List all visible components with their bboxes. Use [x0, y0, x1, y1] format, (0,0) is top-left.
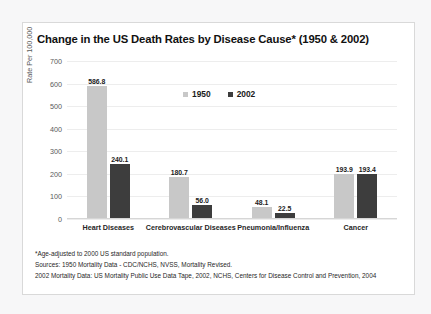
y-axis-tick-label: 600: [50, 79, 62, 88]
bar-value-label: 193.4: [359, 166, 376, 173]
y-axis-tick-label: 200: [50, 169, 62, 178]
bar-value-label: 193.9: [336, 166, 353, 173]
bar-value-label: 22.5: [278, 205, 291, 212]
gridline: [67, 61, 397, 62]
bar-2002[interactable]: 193.4: [357, 174, 377, 218]
bar-value-label: 56.0: [196, 197, 209, 204]
bar-rect[interactable]: [357, 174, 377, 218]
bar-2002[interactable]: 240.1: [110, 164, 130, 218]
footnote-line: Sources: 1950 Mortality Data - CDC/NCHS,…: [35, 259, 407, 270]
bar-value-label: 48.1: [255, 199, 268, 206]
footnote-line: *Age-adjusted to 2000 US standard popula…: [35, 248, 407, 259]
bar-value-label: 586.8: [88, 78, 105, 85]
bar-group: 180.756.0Cerebrovascular Diseases: [150, 177, 233, 218]
bar-1950[interactable]: 193.9: [334, 174, 354, 218]
bar-1950[interactable]: 180.7: [169, 177, 189, 218]
footnote-line: 2002 Mortality Data: US Mortality Public…: [35, 270, 407, 281]
bar-value-label: 180.7: [171, 169, 188, 176]
legend-label: 1950: [192, 89, 211, 99]
y-axis-tick-label: 100: [50, 192, 62, 201]
plot-area: 0100200300400500600700 586.8240.1Heart D…: [67, 61, 397, 219]
bar-rect[interactable]: [334, 174, 354, 218]
bar-rect[interactable]: [169, 177, 189, 218]
y-axis-tick-label: 700: [50, 57, 62, 66]
y-axis-tick-label: 400: [50, 124, 62, 133]
bar-2002[interactable]: 56.0: [192, 205, 212, 218]
gridline: [67, 84, 397, 85]
y-axis-title: Rate Per 100,000: [25, 27, 34, 83]
x-axis-category-label: Cancer: [304, 223, 408, 232]
gridline: [67, 219, 397, 220]
bar-rect[interactable]: [110, 164, 130, 218]
y-axis-tick-label: 300: [50, 147, 62, 156]
legend-item-1950[interactable]: 1950: [183, 89, 211, 99]
page-title: Change in the US Death Rates by Disease …: [37, 33, 407, 45]
bar-group: 586.8240.1Heart Diseases: [67, 86, 150, 218]
bar-rect[interactable]: [275, 213, 295, 218]
bar-1950[interactable]: 586.8: [87, 86, 107, 218]
footnotes: *Age-adjusted to 2000 US standard popula…: [35, 248, 407, 281]
legend-swatch-icon: [183, 92, 188, 97]
x-axis-line: [67, 218, 397, 219]
legend-label: 2002: [237, 89, 256, 99]
bar-rect[interactable]: [192, 205, 212, 218]
bar-2002[interactable]: 22.5: [275, 213, 295, 218]
bar-group: 193.9193.4Cancer: [315, 174, 398, 218]
bar-group: 48.122.5Pneumonia/Influenza: [232, 207, 315, 218]
legend-item-2002[interactable]: 2002: [228, 89, 256, 99]
chart-legend: 19502002: [183, 89, 255, 99]
y-axis-tick-label: 500: [50, 102, 62, 111]
bar-rect[interactable]: [87, 86, 107, 218]
chart-card: Change in the US Death Rates by Disease …: [22, 22, 415, 295]
bar-rect[interactable]: [252, 207, 272, 218]
bar-value-label: 240.1: [111, 156, 128, 163]
bar-1950[interactable]: 48.1: [252, 207, 272, 218]
legend-swatch-icon: [228, 92, 233, 97]
